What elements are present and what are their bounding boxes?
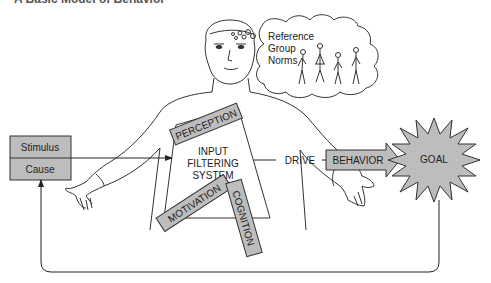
- drive-label: DRIVE: [285, 155, 316, 166]
- stimulus-label: Stimulus: [21, 142, 59, 153]
- input-label: INPUT: [198, 146, 228, 157]
- reference-label: Reference: [268, 31, 315, 42]
- motivation-box: MOTIVATION: [156, 175, 232, 232]
- group-people-icon: [298, 44, 360, 85]
- norms-label: Norms: [268, 55, 297, 66]
- behavior-label: BEHAVIOR: [333, 155, 384, 166]
- group-label: Group: [268, 43, 296, 54]
- filtering-label: FILTERING: [187, 158, 239, 169]
- cause-label: Cause: [26, 164, 55, 175]
- system-label: SYSTEM: [192, 170, 233, 181]
- goal-label: GOAL: [420, 154, 448, 165]
